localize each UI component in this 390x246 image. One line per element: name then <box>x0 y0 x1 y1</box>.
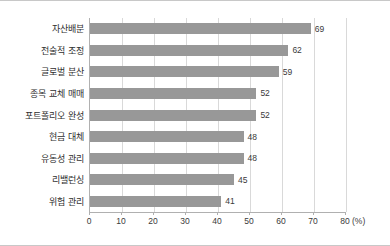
x-tick-mark <box>217 212 218 215</box>
bar <box>90 66 279 77</box>
x-tick-label: 80 <box>340 217 349 226</box>
x-tick-label: 60 <box>276 217 285 226</box>
plot-area: 696259525248484541 <box>89 18 346 212</box>
bar-row: 48 <box>90 126 346 148</box>
x-tick-mark <box>121 212 122 215</box>
x-axis-unit-label: (%) <box>352 217 365 226</box>
bar-row: 62 <box>90 40 346 62</box>
x-tick-mark <box>249 212 250 215</box>
category-label: 자산배분 <box>0 18 84 40</box>
bar-row: 52 <box>90 104 346 126</box>
category-label: 리밸런싱 <box>0 169 84 191</box>
category-label: 글로벌 분산 <box>0 61 84 83</box>
bar-value-label: 62 <box>292 46 301 55</box>
x-tick-label: 20 <box>148 217 157 226</box>
x-tick-label: 10 <box>116 217 125 226</box>
bar-value-label: 69 <box>315 25 324 34</box>
bar-row: 59 <box>90 61 346 83</box>
category-label: 종목 교체 매매 <box>0 83 84 105</box>
bar-series: 696259525248484541 <box>90 18 346 212</box>
bar-row: 48 <box>90 147 346 169</box>
x-tick-label: 40 <box>212 217 221 226</box>
bar <box>90 23 311 34</box>
x-tick-mark <box>313 212 314 215</box>
x-tick-mark <box>153 212 154 215</box>
bar <box>90 88 256 99</box>
bar-chart-figure: 696259525248484541 자산배분전술적 조정글로벌 분산종목 교체… <box>0 0 390 246</box>
bar-value-label: 52 <box>260 89 269 98</box>
x-tick-mark <box>281 212 282 215</box>
bar-value-label: 52 <box>260 111 269 120</box>
x-tick-mark <box>89 212 90 215</box>
x-tick-label: 70 <box>308 217 317 226</box>
bar <box>90 131 244 142</box>
category-label: 전술적 조정 <box>0 40 84 62</box>
bar-row: 41 <box>90 191 346 213</box>
bar-row: 45 <box>90 169 346 191</box>
bar <box>90 153 244 164</box>
bar-value-label: 48 <box>248 154 257 163</box>
category-axis-labels: 자산배분전술적 조정글로벌 분산종목 교체 매매포트폴리오 완성현금 대체유동성… <box>0 18 84 212</box>
x-tick-label: 30 <box>180 217 189 226</box>
bar <box>90 196 221 207</box>
x-tick-label: 50 <box>244 217 253 226</box>
x-tick-mark <box>345 212 346 215</box>
bar <box>90 45 288 56</box>
category-label: 유동성 관리 <box>0 147 84 169</box>
category-label: 현금 대체 <box>0 126 84 148</box>
bar-value-label: 48 <box>248 132 257 141</box>
gridline <box>346 18 347 212</box>
bar <box>90 110 256 121</box>
x-tick-label: 0 <box>87 217 92 226</box>
bar-row: 52 <box>90 83 346 105</box>
x-tick-mark <box>185 212 186 215</box>
category-label: 포트폴리오 완성 <box>0 104 84 126</box>
bar-value-label: 45 <box>238 175 247 184</box>
bar <box>90 174 234 185</box>
bar-row: 69 <box>90 18 346 40</box>
bar-value-label: 41 <box>225 197 234 206</box>
bar-value-label: 59 <box>283 68 292 77</box>
category-label: 위험 관리 <box>0 191 84 213</box>
